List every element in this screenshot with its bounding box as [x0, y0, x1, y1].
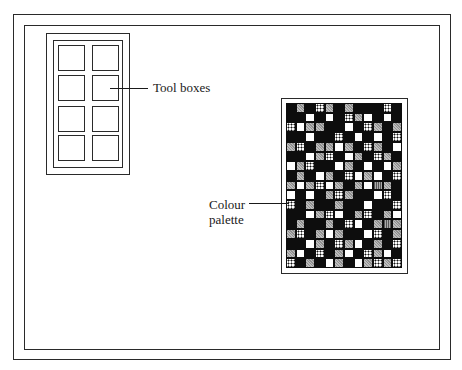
palette-swatch[interactable]: [287, 211, 295, 219]
palette-swatch[interactable]: [374, 201, 382, 209]
palette-swatch[interactable]: [326, 182, 334, 190]
palette-swatch[interactable]: [297, 172, 305, 180]
palette-swatch[interactable]: [287, 259, 295, 267]
palette-swatch[interactable]: [287, 162, 295, 170]
palette-swatch[interactable]: [374, 250, 382, 258]
palette-swatch[interactable]: [297, 240, 305, 248]
palette-swatch[interactable]: [355, 114, 363, 122]
palette-swatch[interactable]: [335, 114, 343, 122]
palette-swatch[interactable]: [287, 250, 295, 258]
palette-swatch[interactable]: [393, 230, 401, 238]
palette-swatch[interactable]: [316, 123, 324, 131]
palette-swatch[interactable]: [345, 250, 353, 258]
palette-swatch[interactable]: [326, 123, 334, 131]
palette-swatch[interactable]: [326, 250, 334, 258]
palette-swatch[interactable]: [326, 201, 334, 209]
palette-swatch[interactable]: [345, 162, 353, 170]
palette-swatch[interactable]: [306, 143, 314, 151]
palette-swatch[interactable]: [287, 133, 295, 141]
palette-swatch[interactable]: [297, 220, 305, 228]
palette-swatch[interactable]: [355, 133, 363, 141]
palette-swatch[interactable]: [393, 201, 401, 209]
palette-swatch[interactable]: [345, 172, 353, 180]
palette-swatch[interactable]: [306, 162, 314, 170]
palette-swatch[interactable]: [316, 143, 324, 151]
palette-swatch[interactable]: [287, 182, 295, 190]
palette-swatch[interactable]: [374, 220, 382, 228]
palette-swatch[interactable]: [364, 172, 372, 180]
palette-swatch[interactable]: [297, 259, 305, 267]
palette-swatch[interactable]: [326, 104, 334, 112]
palette-swatch[interactable]: [345, 182, 353, 190]
palette-swatch[interactable]: [306, 211, 314, 219]
palette-swatch[interactable]: [384, 240, 392, 248]
palette-swatch[interactable]: [364, 191, 372, 199]
palette-swatch[interactable]: [355, 182, 363, 190]
palette-swatch[interactable]: [345, 259, 353, 267]
palette-swatch[interactable]: [316, 162, 324, 170]
palette-swatch[interactable]: [287, 123, 295, 131]
palette-swatch[interactable]: [374, 259, 382, 267]
palette-swatch[interactable]: [393, 114, 401, 122]
palette-swatch[interactable]: [355, 191, 363, 199]
palette-swatch[interactable]: [345, 201, 353, 209]
palette-swatch[interactable]: [297, 114, 305, 122]
palette-swatch[interactable]: [345, 114, 353, 122]
palette-swatch[interactable]: [326, 230, 334, 238]
palette-swatch[interactable]: [287, 230, 295, 238]
palette-swatch[interactable]: [326, 133, 334, 141]
palette-swatch[interactable]: [364, 201, 372, 209]
palette-swatch[interactable]: [384, 182, 392, 190]
tool-box-8[interactable]: [92, 135, 119, 161]
palette-swatch[interactable]: [287, 114, 295, 122]
palette-swatch[interactable]: [345, 123, 353, 131]
palette-swatch[interactable]: [355, 172, 363, 180]
palette-swatch[interactable]: [374, 143, 382, 151]
palette-swatch[interactable]: [374, 133, 382, 141]
palette-swatch[interactable]: [393, 191, 401, 199]
palette-swatch[interactable]: [316, 153, 324, 161]
palette-swatch[interactable]: [335, 230, 343, 238]
palette-swatch[interactable]: [364, 230, 372, 238]
colour-palette-grid[interactable]: [286, 103, 402, 268]
palette-swatch[interactable]: [364, 162, 372, 170]
palette-swatch[interactable]: [287, 220, 295, 228]
palette-swatch[interactable]: [384, 230, 392, 238]
palette-swatch[interactable]: [393, 143, 401, 151]
palette-swatch[interactable]: [287, 240, 295, 248]
palette-swatch[interactable]: [287, 153, 295, 161]
palette-swatch[interactable]: [345, 143, 353, 151]
palette-swatch[interactable]: [297, 182, 305, 190]
palette-swatch[interactable]: [345, 104, 353, 112]
palette-swatch[interactable]: [355, 153, 363, 161]
palette-swatch[interactable]: [374, 230, 382, 238]
tool-box-6[interactable]: [92, 106, 119, 132]
palette-swatch[interactable]: [306, 230, 314, 238]
palette-swatch[interactable]: [326, 191, 334, 199]
palette-swatch[interactable]: [355, 104, 363, 112]
palette-swatch[interactable]: [364, 114, 372, 122]
palette-swatch[interactable]: [384, 162, 392, 170]
palette-swatch[interactable]: [384, 172, 392, 180]
palette-swatch[interactable]: [316, 240, 324, 248]
palette-swatch[interactable]: [297, 211, 305, 219]
palette-swatch[interactable]: [316, 104, 324, 112]
tool-box-3[interactable]: [58, 75, 85, 101]
palette-swatch[interactable]: [335, 240, 343, 248]
palette-swatch[interactable]: [335, 211, 343, 219]
palette-swatch[interactable]: [335, 220, 343, 228]
palette-swatch[interactable]: [335, 250, 343, 258]
palette-swatch[interactable]: [306, 259, 314, 267]
palette-swatch[interactable]: [384, 143, 392, 151]
palette-swatch[interactable]: [393, 104, 401, 112]
palette-swatch[interactable]: [345, 220, 353, 228]
palette-swatch[interactable]: [384, 259, 392, 267]
palette-swatch[interactable]: [364, 104, 372, 112]
palette-swatch[interactable]: [345, 240, 353, 248]
palette-swatch[interactable]: [316, 133, 324, 141]
palette-swatch[interactable]: [297, 250, 305, 258]
tool-box-2[interactable]: [92, 45, 119, 71]
palette-swatch[interactable]: [326, 259, 334, 267]
palette-swatch[interactable]: [297, 153, 305, 161]
palette-swatch[interactable]: [364, 220, 372, 228]
